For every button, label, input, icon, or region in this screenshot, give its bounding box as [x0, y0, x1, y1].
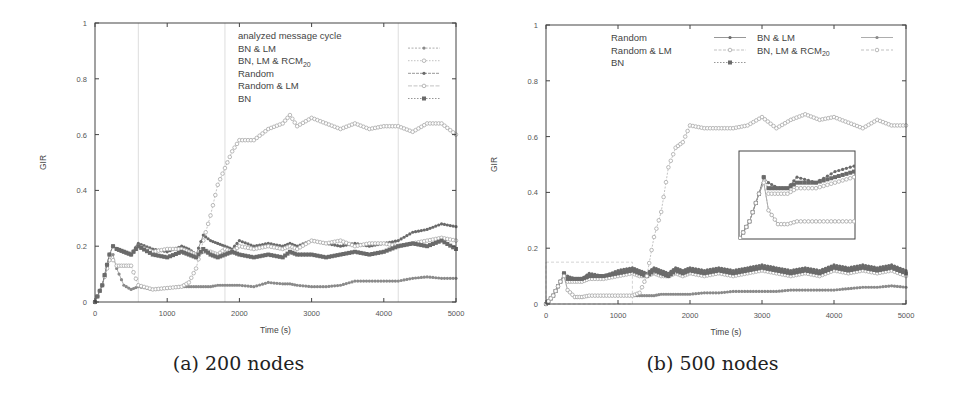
- marker-filled-circle-icon: [324, 285, 327, 288]
- marker-open-circle-icon: [293, 121, 297, 125]
- marker-filled-circle-icon: [313, 285, 316, 288]
- marker-filled-circle-icon: [374, 279, 377, 282]
- marker-filled-circle-icon: [709, 291, 712, 294]
- marker-square-icon: [100, 283, 104, 287]
- marker-open-circle-icon: [845, 220, 849, 224]
- marker-filled-circle-icon: [691, 292, 694, 295]
- marker-filled-circle-icon: [899, 285, 902, 288]
- marker-filled-circle-icon: [434, 225, 437, 228]
- marker-open-circle-icon: [826, 220, 830, 224]
- marker-filled-circle-icon: [307, 285, 310, 288]
- marker-filled-circle-icon: [405, 234, 408, 237]
- y-tick-label: 0: [534, 300, 538, 309]
- marker-filled-circle-icon: [798, 288, 801, 291]
- caption-b: (b) 500 nodes: [474, 352, 951, 374]
- marker-filled-circle-icon: [431, 226, 434, 229]
- marker-filled-circle-icon: [264, 282, 267, 285]
- marker-filled-circle-icon: [867, 286, 870, 289]
- marker-filled-circle-icon: [422, 72, 425, 75]
- legend-label: Random: [611, 32, 647, 43]
- marker-open-circle-icon: [643, 280, 647, 284]
- marker-filled-circle-icon: [847, 287, 850, 290]
- x-tick-label: 4000: [375, 309, 392, 318]
- marker-filled-circle-icon: [362, 279, 365, 282]
- y-tick-label: 0.6: [77, 131, 87, 140]
- marker-filled-circle-icon: [339, 284, 342, 287]
- marker-filled-circle-icon: [428, 227, 431, 230]
- marker-filled-circle-icon: [301, 284, 304, 287]
- marker-filled-circle-icon: [830, 172, 833, 175]
- marker-filled-circle-icon: [795, 288, 798, 291]
- marker-open-circle-icon: [822, 184, 826, 188]
- marker-open-circle-icon: [814, 220, 818, 224]
- marker-filled-circle-icon: [197, 246, 200, 249]
- marker-open-circle-icon: [845, 178, 849, 182]
- marker-filled-circle-icon: [755, 290, 758, 293]
- marker-open-circle-icon: [803, 186, 807, 190]
- marker-open-circle-icon: [818, 185, 822, 189]
- marker-filled-circle-icon: [397, 279, 400, 282]
- marker-filled-circle-icon: [298, 284, 301, 287]
- legend-cycle-label: analyzed message cycle: [238, 30, 342, 41]
- y-tick-label: 0.6: [528, 133, 538, 142]
- marker-open-circle-icon: [647, 261, 651, 265]
- marker-filled-circle-icon: [786, 289, 789, 292]
- marker-open-circle-icon: [757, 192, 761, 196]
- marker-filled-circle-icon: [801, 288, 804, 291]
- marker-filled-circle-icon: [417, 276, 420, 279]
- marker-filled-circle-icon: [388, 279, 391, 282]
- marker-square-icon: [818, 180, 822, 184]
- marker-filled-circle-icon: [336, 284, 339, 287]
- marker-filled-circle-icon: [890, 284, 893, 287]
- marker-open-circle-icon: [221, 172, 225, 176]
- x-tick-label: 5000: [448, 309, 465, 318]
- marker-filled-circle-icon: [861, 286, 864, 289]
- marker-filled-circle-icon: [249, 285, 252, 288]
- marker-filled-circle-icon: [887, 285, 890, 288]
- marker-filled-circle-icon: [452, 277, 455, 280]
- x-tick-label: 4000: [826, 311, 843, 320]
- marker-open-circle-icon: [662, 195, 666, 199]
- marker-open-circle-icon: [799, 220, 803, 224]
- marker-filled-circle-icon: [356, 279, 359, 282]
- marker-filled-circle-icon: [423, 276, 426, 279]
- marker-open-circle-icon: [833, 220, 837, 224]
- marker-filled-circle-icon: [252, 285, 255, 288]
- marker-filled-circle-icon: [804, 288, 807, 291]
- marker-filled-circle-icon: [376, 279, 379, 282]
- marker-filled-circle-icon: [853, 286, 856, 289]
- marker-filled-circle-icon: [723, 291, 726, 294]
- marker-filled-circle-icon: [342, 283, 345, 286]
- marker-filled-circle-icon: [770, 183, 773, 186]
- marker-filled-circle-icon: [437, 223, 440, 226]
- marker-filled-circle-icon: [414, 230, 417, 233]
- marker-filled-circle-icon: [258, 283, 261, 286]
- marker-open-circle-icon: [686, 129, 690, 133]
- legend-label: BN: [611, 57, 624, 68]
- marker-filled-circle-icon: [826, 174, 829, 177]
- y-tick-label: 0.4: [528, 188, 538, 197]
- marker-square-icon: [844, 172, 848, 176]
- marker-square-icon: [822, 178, 826, 182]
- marker-open-circle-icon: [848, 176, 852, 180]
- marker-filled-circle-icon: [783, 289, 786, 292]
- y-tick-label: 1: [83, 19, 87, 28]
- marker-filled-circle-icon: [827, 288, 830, 291]
- marker-filled-circle-icon: [449, 277, 452, 280]
- marker-filled-circle-icon: [694, 292, 697, 295]
- marker-filled-circle-icon: [878, 285, 881, 288]
- marker-open-circle-icon: [741, 231, 745, 235]
- marker-square-icon: [799, 181, 803, 185]
- marker-square-icon: [422, 97, 426, 101]
- marker-filled-circle-icon: [440, 277, 443, 280]
- x-tick-label: 2000: [231, 309, 248, 318]
- marker-filled-circle-icon: [850, 287, 853, 290]
- marker-filled-circle-icon: [117, 273, 120, 276]
- marker-filled-circle-icon: [841, 168, 844, 171]
- marker-filled-circle-icon: [792, 288, 795, 291]
- marker-filled-circle-icon: [809, 288, 812, 291]
- marker-open-circle-icon: [204, 230, 208, 234]
- x-tick-label: 2000: [682, 311, 699, 320]
- marker-open-circle-icon: [223, 166, 227, 170]
- marker-filled-circle-icon: [875, 36, 878, 39]
